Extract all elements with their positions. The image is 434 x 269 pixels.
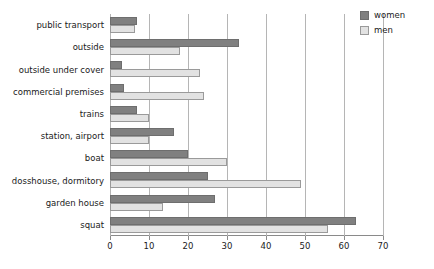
bar-women	[110, 106, 137, 114]
axis-tick-mark	[383, 236, 384, 240]
axis-tick-label: 0	[95, 241, 125, 251]
axis-tick-label: 60	[329, 241, 359, 251]
bar-men	[110, 158, 227, 166]
category-label: outside	[0, 42, 104, 52]
bar-men	[110, 25, 135, 33]
bar-group	[110, 36, 383, 58]
axis-tick-label: 20	[173, 241, 203, 251]
axis-tick-label: 10	[134, 241, 164, 251]
category-label: station, airport	[0, 131, 104, 141]
category-label: public transport	[0, 20, 104, 30]
bar-group	[110, 103, 383, 125]
category-label: trains	[0, 109, 104, 119]
bar-group	[110, 58, 383, 80]
bar-women	[110, 172, 208, 180]
category-label: commercial premises	[0, 87, 104, 97]
bar-men	[110, 92, 204, 100]
axis-tick-mark	[110, 236, 111, 240]
legend-swatch-women-icon	[360, 11, 369, 20]
category-label: squat	[0, 220, 104, 230]
plot-area	[110, 14, 383, 236]
bar-women	[110, 150, 188, 158]
bar-women	[110, 61, 122, 69]
bar-women	[110, 128, 174, 136]
bar-men	[110, 47, 180, 55]
legend-swatch-men-icon	[360, 26, 369, 35]
value-axis: 010203040506070	[110, 236, 383, 258]
bar-group	[110, 81, 383, 103]
bar-women	[110, 84, 124, 92]
chart-legend: women men	[360, 10, 430, 40]
bar-men	[110, 180, 301, 188]
gridline	[383, 14, 384, 236]
legend-label-men: men	[374, 25, 393, 35]
axis-tick-label: 40	[251, 241, 281, 251]
axis-tick-mark	[149, 236, 150, 240]
axis-tick-label: 50	[290, 241, 320, 251]
bar-chart: public transportoutsideoutside under cov…	[0, 0, 434, 269]
bar-group	[110, 169, 383, 191]
axis-tick-mark	[266, 236, 267, 240]
category-label: outside under cover	[0, 65, 104, 75]
bar-women	[110, 39, 239, 47]
category-label: dosshouse, dormitory	[0, 176, 104, 186]
bar-men	[110, 114, 149, 122]
category-label: boat	[0, 153, 104, 163]
bar-group	[110, 125, 383, 147]
axis-tick-mark	[305, 236, 306, 240]
bar-women	[110, 17, 137, 25]
bar-men	[110, 225, 328, 233]
legend-item-men: men	[360, 25, 430, 35]
category-label: garden house	[0, 198, 104, 208]
axis-tick-mark	[188, 236, 189, 240]
axis-tick-label: 30	[212, 241, 242, 251]
legend-label-women: women	[374, 10, 405, 20]
bar-women	[110, 195, 215, 203]
legend-item-women: women	[360, 10, 430, 20]
bar-group	[110, 14, 383, 36]
bar-women	[110, 217, 356, 225]
bar-group	[110, 147, 383, 169]
axis-tick-mark	[227, 236, 228, 240]
axis-tick-mark	[344, 236, 345, 240]
bar-men	[110, 69, 200, 77]
bar-group	[110, 214, 383, 236]
category-axis: public transportoutsideoutside under cov…	[0, 14, 108, 236]
bar-group	[110, 192, 383, 214]
axis-tick-label: 70	[368, 241, 398, 251]
bar-men	[110, 203, 163, 211]
bar-men	[110, 136, 149, 144]
